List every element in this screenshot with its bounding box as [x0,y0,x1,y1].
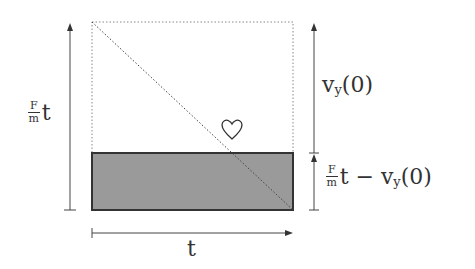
right-lower-label: Fmt − vy(0) [326,164,432,189]
heart-icon [222,120,242,139]
left-label: Fmt [28,100,50,125]
shaded-rectangle [92,153,293,210]
diagram-canvas [0,0,475,269]
bottom-label: t [187,236,196,261]
right-upper-label: vy(0) [322,72,373,97]
